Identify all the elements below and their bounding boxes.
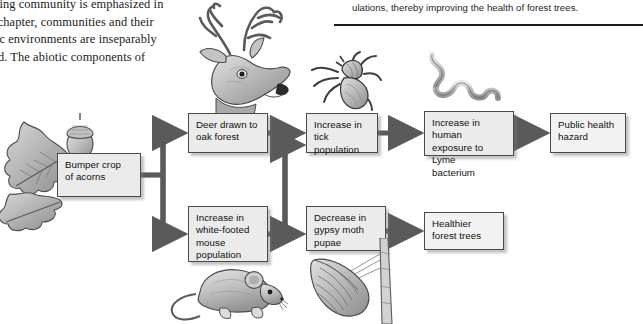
left-column-body-text: living community is emphasized in is cha… [0, 0, 186, 66]
node-deer-drawn-to-oak-forest[interactable]: Deer drawn to oak forest [188, 113, 268, 153]
deer-head-illustration [186, 0, 298, 116]
white-footed-mouse-illustration [166, 258, 288, 324]
node-public-health-hazard[interactable]: Public health hazard [550, 113, 626, 153]
lyme-spirochete-bacterium-illustration [424, 46, 502, 116]
node-bumper-crop-of-acorns[interactable]: Bumper crop of acorns [57, 153, 141, 197]
node-increase-in-tick-population[interactable]: Increase in tick population [306, 113, 378, 153]
node-increase-in-white-footed-mouse-population[interactable]: Increase in white-footed mouse populatio… [188, 206, 268, 262]
node-healthier-forest-trees[interactable]: Healthier forest trees [424, 212, 504, 250]
gypsy-moth-pupa-illustration [306, 238, 412, 324]
node-increase-in-human-exposure-to-lyme-bacterium[interactable]: Increase in human exposure to Lyme bacte… [424, 111, 514, 156]
right-column-body-text: ulations, thereby improving the health o… [352, 1, 642, 14]
tick-illustration [308, 50, 382, 116]
header-divider-rule [334, 24, 643, 26]
